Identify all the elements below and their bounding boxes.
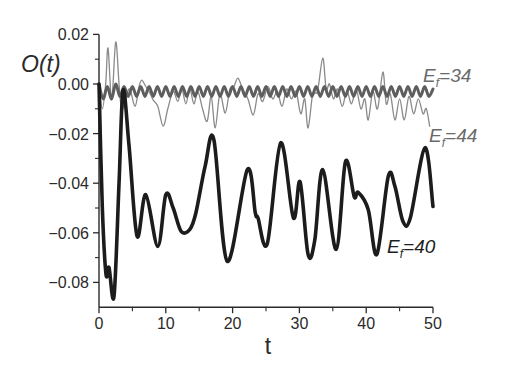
label-e: E [429,125,442,146]
x-tick-label: 0 [95,315,104,332]
series-label-ef40: Ef=40 [387,236,436,261]
label-value: =44 [445,125,477,146]
series-layer [99,42,433,299]
label-e: E [423,65,436,86]
x-axis-title: t [265,333,272,359]
series-label-ef44: Ef=44 [429,125,477,150]
y-axis-title: O(t) [21,51,61,77]
label-e: E [387,236,400,257]
y-tick-label: 0.00 [58,76,89,93]
label-value: =40 [403,236,436,257]
x-tick-label: 50 [424,315,442,332]
label-value: =34 [439,65,471,86]
y-tick-label: −0.02 [49,126,90,143]
x-tick-label: 20 [224,315,242,332]
y-tick-label: 0.02 [58,26,89,43]
x-tick-label: 10 [157,315,175,332]
series-line-ef40 [99,84,433,299]
x-ticks: 01020304050 [95,307,442,332]
line-chart: 0.020.00−0.02−0.04−0.06−0.08 01020304050… [0,0,513,367]
y-tick-label: −0.04 [49,175,90,192]
y-tick-label: −0.06 [49,225,90,242]
y-tick-label: −0.08 [49,274,90,291]
series-label-ef34: Ef=34 [423,65,471,90]
series-line-ef44 [99,42,430,128]
x-tick-label: 40 [357,315,375,332]
x-tick-label: 30 [291,315,309,332]
